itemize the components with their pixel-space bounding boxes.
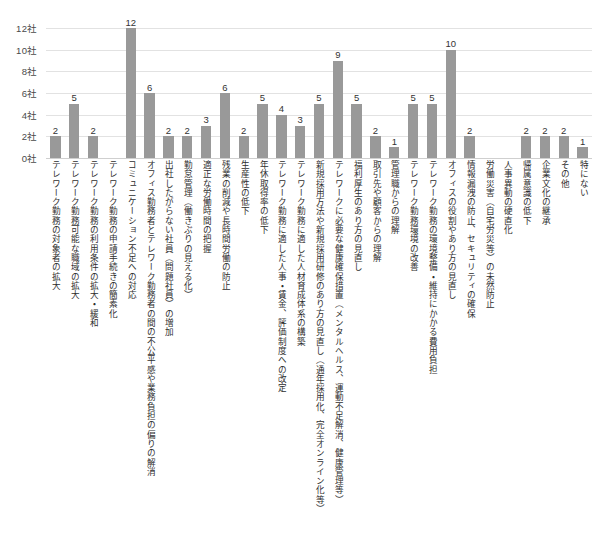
y-axis: 0社2社4社6社8社10社12社 — [0, 28, 42, 158]
bar[interactable]: 5 — [257, 104, 267, 158]
y-axis-tick-label: 8社 — [22, 64, 38, 78]
category-label: 取引先や顧客からの理解 — [370, 160, 380, 555]
category-label-slot: その他 — [554, 160, 573, 555]
category-label: 企業文化の継承 — [540, 160, 550, 555]
bar-slot: 2 — [178, 28, 197, 158]
category-label-slot: オフィスの役割やあり方の見直し — [441, 160, 460, 555]
category-label-slot: 新規採用方法や新規採用研修のあり方の見直し（通年採用化、完全オンライン化等） — [310, 160, 329, 555]
category-label-slot: テレワーク勤務の環境整備・維持にかかる費用負担 — [423, 160, 442, 555]
bar-value-label: 6 — [222, 83, 227, 93]
bar-value-label: 5 — [429, 93, 434, 103]
bar[interactable]: 2 — [50, 136, 60, 158]
bar[interactable]: 5 — [408, 104, 418, 158]
category-label-slot: 適正な労働時間の把握 — [197, 160, 216, 555]
bar-slot: 2 — [46, 28, 65, 158]
bar[interactable]: 2 — [370, 136, 380, 158]
bar-slot: 6 — [215, 28, 234, 158]
bar-value-label: 2 — [53, 126, 58, 136]
bar[interactable]: 5 — [69, 104, 79, 158]
bar-slot: 2 — [366, 28, 385, 158]
bar-value-label: 2 — [166, 126, 171, 136]
category-label: 帰属意識の低下 — [521, 160, 531, 555]
y-axis-tick-label: 2社 — [22, 129, 38, 143]
bar[interactable]: 6 — [220, 93, 230, 158]
bar-slot: 5 — [253, 28, 272, 158]
category-label-slot: オフィス勤務者とテレワーク勤務者の間の不公平感や業務負担の偏りの解消 — [140, 160, 159, 555]
bar[interactable]: 1 — [577, 147, 587, 158]
bar[interactable]: 2 — [559, 136, 569, 158]
category-label-slot: 管理職からの理解 — [385, 160, 404, 555]
bar[interactable]: 5 — [314, 104, 324, 158]
category-label-slot: テレワーク勤務に適した人事・賃金、評価制度への改定 — [272, 160, 291, 555]
y-axis-tick-label: 6社 — [22, 86, 38, 100]
category-label-slot: 特にない — [573, 160, 592, 555]
category-label: 管理職からの理解 — [389, 160, 399, 555]
category-label-slot: テレワーク勤務の申請手続きの簡素化 — [102, 160, 121, 555]
bar[interactable]: 2 — [540, 136, 550, 158]
bar[interactable]: 9 — [333, 61, 343, 159]
bar-value-label: 1 — [392, 137, 397, 147]
category-label: テレワーク勤務環境の改善 — [408, 160, 418, 555]
bar[interactable]: 2 — [163, 136, 173, 158]
bar-value-label: 2 — [542, 126, 547, 136]
bar-value-label: 9 — [335, 50, 340, 60]
bar-slot: 5 — [423, 28, 442, 158]
bar[interactable]: 5 — [427, 104, 437, 158]
bar-value-label: 5 — [410, 93, 415, 103]
bar-value-label: 2 — [373, 126, 378, 136]
category-label: 福利厚生のあり方の見直し — [352, 160, 362, 555]
bars-container: 2520126223625435952155102002221 — [46, 28, 592, 158]
category-label: 勤怠管理（働きぶりの見える化） — [182, 160, 192, 555]
category-label-slot: 帰属意識の低下 — [517, 160, 536, 555]
bar[interactable]: 2 — [88, 136, 98, 158]
category-label: テレワークに必要な健康確保措置（メンタルヘルス、運動不足解消、健康管理等） — [333, 160, 343, 555]
bar-value-label: 10 — [446, 39, 457, 49]
category-label: 新規採用方法や新規採用研修のあり方の見直し（通年採用化、完全オンライン化等） — [314, 160, 324, 555]
bar-slot: 3 — [197, 28, 216, 158]
bar[interactable]: 1 — [389, 147, 399, 158]
category-label: テレワーク勤務の申請手続きの簡素化 — [107, 160, 117, 555]
bar-value-label: 2 — [523, 126, 528, 136]
category-label: 年休取得率の低下 — [257, 160, 267, 555]
category-label-slot: 企業文化の継承 — [536, 160, 555, 555]
bar[interactable]: 3 — [201, 126, 211, 159]
bar[interactable]: 2 — [521, 136, 531, 158]
category-label-slot: テレワーク勤務環境の改善 — [404, 160, 423, 555]
y-axis-tick-label: 4社 — [22, 108, 38, 122]
bar-slot: 0 — [479, 28, 498, 158]
bar[interactable]: 2 — [239, 136, 249, 158]
bar-value-label: 3 — [298, 115, 303, 125]
category-label-slot: コミュニケーション不足への対応 — [121, 160, 140, 555]
bar[interactable]: 2 — [182, 136, 192, 158]
bar[interactable]: 12 — [126, 28, 136, 158]
bar-slot: 1 — [385, 28, 404, 158]
bar-value-label: 5 — [72, 93, 77, 103]
bar[interactable]: 5 — [351, 104, 361, 158]
bar-value-label: 5 — [354, 93, 359, 103]
y-axis-tick-label: 10社 — [16, 43, 38, 57]
category-label: 特にない — [578, 160, 588, 555]
bar-slot: 2 — [536, 28, 555, 158]
bar-value-label: 12 — [125, 18, 136, 28]
bar-slot: 0 — [102, 28, 121, 158]
bar-value-label: 4 — [279, 104, 284, 114]
bar[interactable]: 6 — [144, 93, 154, 158]
category-label: 残業の削減や長時間労働の防止 — [220, 160, 230, 555]
bar[interactable]: 10 — [446, 50, 456, 158]
category-label-slot: 出社したがらない社員（問題社員）の増加 — [159, 160, 178, 555]
bar-value-label: 5 — [260, 93, 265, 103]
bar[interactable]: 3 — [295, 126, 305, 159]
category-label-slot: 年休取得率の低下 — [253, 160, 272, 555]
category-label: オフィスの役割やあり方の見直し — [446, 160, 456, 555]
bar-slot: 10 — [441, 28, 460, 158]
gridline-0 — [46, 158, 592, 159]
category-label: 情報漏洩の防止、セキュリティの確保 — [465, 160, 475, 555]
category-label: その他 — [559, 160, 569, 555]
category-label-slot: テレワーク勤務の対象者の拡大 — [46, 160, 65, 555]
category-label: オフィス勤務者とテレワーク勤務者の間の不公平感や業務負担の偏りの解消 — [144, 160, 154, 555]
bar[interactable]: 4 — [276, 115, 286, 158]
bar-value-label: 3 — [203, 115, 208, 125]
category-label: テレワーク勤務の環境整備・維持にかかる費用負担 — [427, 160, 437, 555]
bar[interactable]: 2 — [464, 136, 474, 158]
category-label: コミュニケーション不足への対応 — [126, 160, 136, 555]
